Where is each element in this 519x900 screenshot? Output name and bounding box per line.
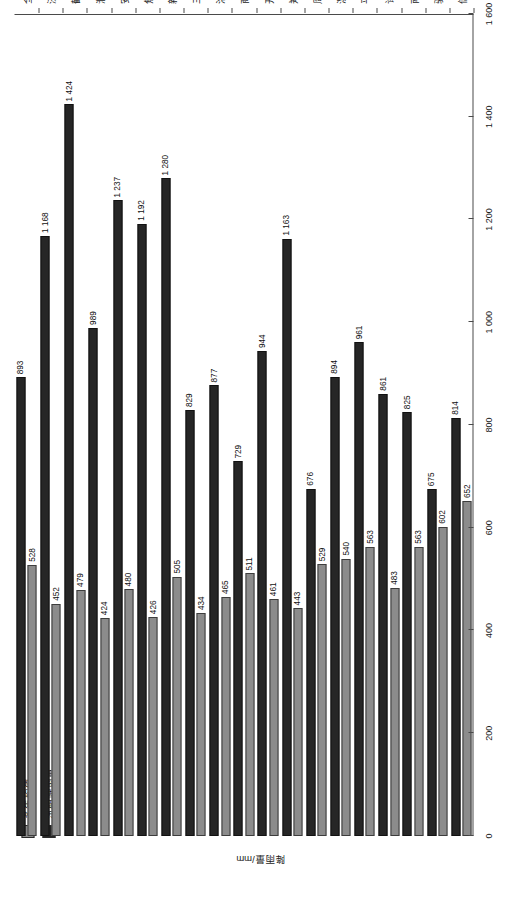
bar-average[interactable] [317,564,326,836]
bar-flood[interactable] [402,412,411,836]
bar-value-label: 483 [390,571,399,585]
bar-value-label: 1 168 [40,212,49,233]
bar-flood[interactable] [257,351,266,836]
bar-value-label: 1 192 [137,200,146,221]
bar-group: 729511商丘 [231,14,255,836]
chart-figure: 多年均值 汛期降雨量 降雨量/mm 893528全省1 168452济源1 42… [0,0,519,900]
bar-row-average: 424 [100,14,109,836]
category-axis-label: 漯河 [333,0,347,4]
bar-row-average: 540 [341,14,350,836]
bar-row-average: 461 [269,14,278,836]
bar-average[interactable] [148,617,157,836]
category-axis-tick [328,8,329,13]
value-axis-tick [468,13,473,14]
bar-flood[interactable] [40,236,49,836]
bar-row-average: 511 [245,14,254,836]
bar-group: 877465洛阳 [207,14,231,836]
bar-average[interactable] [245,573,254,836]
bar-flood[interactable] [88,328,97,836]
bar-row-flood: 814 [451,14,460,836]
bar-group: 1 237480安阳 [111,14,135,836]
bar-average[interactable] [100,618,109,836]
bar-row-average: 465 [221,14,230,836]
category-axis-label: 驻马店 [430,0,444,4]
bar-value-label: 443 [293,592,302,606]
category-axis-tick [280,8,281,13]
value-axis-tick [468,835,473,836]
bar-average[interactable] [390,588,399,836]
value-axis-tick-label: 600 [483,520,493,535]
bar-row-flood: 1 280 [161,14,170,836]
bar-flood[interactable] [330,377,339,836]
bar-average[interactable] [269,599,278,836]
category-axis-line [14,14,473,15]
bar-group: 1 424479鹤壁 [62,14,86,836]
bar-row-flood: 894 [330,14,339,836]
bar-group: 829434三门峡 [183,14,207,836]
category-axis-label: 郑州 [285,0,299,4]
bar-group: 989424濮阳 [86,14,110,836]
bar-flood[interactable] [451,418,460,836]
bar-value-label: 465 [221,580,230,594]
bar-flood[interactable] [113,201,122,837]
bar-value-label: 893 [16,361,25,375]
bar-flood[interactable] [427,489,436,836]
value-axis-tick [468,732,473,733]
bar-average[interactable] [27,565,36,836]
bar-average[interactable] [293,608,302,836]
category-axis-tick [352,8,353,13]
bar-value-label: 479 [76,573,85,587]
category-axis-tick [86,8,87,13]
bar-row-flood: 893 [16,14,25,836]
bar-flood[interactable] [64,104,73,836]
category-axis-label: 济源 [43,0,57,4]
bar-flood[interactable] [161,178,170,836]
bar-row-average: 505 [172,14,181,836]
bar-group: 894540漯河 [328,14,352,836]
bar-flood[interactable] [282,239,291,836]
bar-group: 1 163443郑州 [280,14,304,836]
bar-value-label: 529 [317,548,326,562]
category-axis-tick [425,8,426,13]
bar-average[interactable] [462,501,471,836]
bar-flood[interactable] [354,342,363,836]
bar-average[interactable] [438,527,447,836]
bar-flood[interactable] [137,224,146,836]
bar-average[interactable] [341,559,350,836]
bar-row-average: 480 [124,14,133,836]
value-axis-tick-label: 1 600 [483,3,493,26]
bar-value-label: 563 [414,530,423,544]
bar-flood[interactable] [378,394,387,836]
bar-row-flood: 989 [88,14,97,836]
bar-average[interactable] [196,613,205,836]
bar-value-label: 424 [100,602,109,616]
bar-average[interactable] [414,547,423,836]
bar-value-label: 505 [172,560,181,574]
bar-row-average: 528 [27,14,36,836]
bar-group: 1 168452济源 [38,14,62,836]
bar-flood[interactable] [306,489,315,836]
category-axis-label: 信阳 [454,0,468,4]
bar-average[interactable] [221,597,230,836]
bar-value-label: 511 [245,557,254,570]
bar-average[interactable] [124,589,133,836]
value-axis-tick-label: 1 400 [483,105,493,128]
value-axis-tick-label: 1 200 [483,208,493,231]
bar-average[interactable] [76,590,85,836]
bar-group: 961563平顶山 [352,14,376,836]
bar-row-average: 452 [51,14,60,836]
bar-value-label: 461 [269,583,278,597]
bar-average[interactable] [365,547,374,836]
category-axis-label: 全省 [19,0,33,4]
bar-flood[interactable] [209,385,218,836]
bar-row-average: 602 [438,14,447,836]
bar-average[interactable] [51,604,60,836]
bar-average[interactable] [172,577,181,836]
category-axis-label: 许昌 [381,0,395,4]
bar-flood[interactable] [16,377,25,836]
category-axis-label: 三门峡 [188,0,202,4]
bar-group: 861483许昌 [376,14,400,836]
bar-row-flood: 829 [185,14,194,836]
bar-flood[interactable] [233,461,242,836]
bar-flood[interactable] [185,410,194,836]
